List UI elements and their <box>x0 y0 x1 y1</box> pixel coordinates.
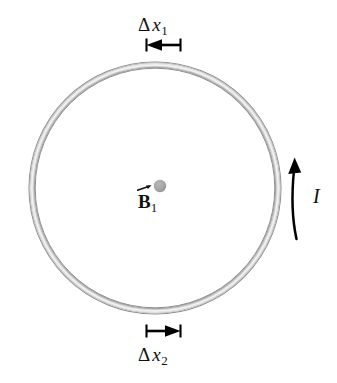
current-label: I <box>313 186 320 206</box>
delta-x2-label: Δx2 <box>138 345 168 367</box>
variable-x: x <box>152 14 160 35</box>
arrowhead-left-icon <box>147 39 163 51</box>
magnetic-field-point <box>154 180 166 192</box>
vector-arrow-icon <box>137 184 152 192</box>
delta-x2-segment-marker <box>147 325 181 338</box>
physics-figure-canvas: Δx1 Δx2 B 1 I <box>0 0 337 383</box>
b-symbol: B <box>138 191 151 212</box>
b-symbol-with-vector-arrow: B <box>138 192 151 211</box>
delta-symbol: Δ <box>138 344 150 365</box>
b-field-vector-label: B 1 <box>138 192 157 214</box>
current-direction-arrow <box>288 158 301 240</box>
current-symbol: I <box>313 185 320 207</box>
subscript-1: 1 <box>161 23 168 38</box>
subscript-1: 1 <box>151 200 158 215</box>
subscript-2: 2 <box>161 353 168 368</box>
delta-x1-segment-marker <box>147 39 181 52</box>
arrowhead-right-icon <box>165 325 181 337</box>
delta-x1-label: Δx1 <box>138 15 168 37</box>
arrowhead-up-icon <box>288 158 301 175</box>
variable-x: x <box>152 344 160 365</box>
delta-symbol: Δ <box>138 14 150 35</box>
figure-vector-graphics <box>0 0 337 383</box>
